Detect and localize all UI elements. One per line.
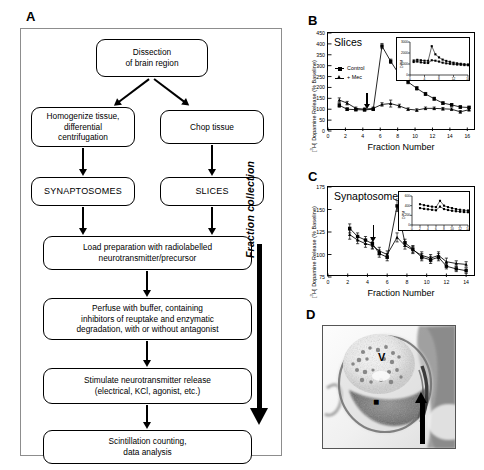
x-tick-label: 16 — [460, 133, 474, 139]
flow-node-chop[interactable]: Chop tissue — [160, 110, 264, 144]
y-tick-label: 350 — [309, 52, 325, 58]
x-tick-label: 4 — [360, 279, 374, 285]
y-tick-label: 200 — [309, 84, 325, 90]
panel-c-title: Synaptosomes — [334, 190, 403, 202]
inset-x-tick-label: 0 — [408, 227, 416, 231]
flow-node-stimulate-label: Stimulate neurotransmitter release(elect… — [84, 375, 211, 397]
y-tick-label: 250 — [309, 74, 325, 80]
flow-arrow-load-perfuse — [146, 271, 148, 291]
inset-x-tick-label: 8 — [440, 227, 448, 231]
legend-square-marker-icon — [335, 68, 344, 69]
x-tick-label: 0 — [321, 279, 335, 285]
panel-a-letter: A — [26, 10, 35, 23]
flow-node-scintillation-label: Scintillation counting,data analysis — [109, 436, 187, 458]
flow-node-chop-label: Chop tissue — [190, 122, 234, 133]
inset-x-tick-label: 4 — [421, 77, 429, 81]
x-tick-label: 8 — [400, 279, 414, 285]
micrograph-image: V ■ — [322, 325, 456, 449]
y-tick-label: 400 — [309, 41, 325, 47]
legend-triangle-marker-icon — [335, 78, 344, 79]
x-tick-label: 2 — [338, 133, 352, 139]
flow-node-homogenize[interactable]: Homogenize tissue,differentialcentrifuga… — [31, 107, 135, 147]
x-tick-label: 12 — [425, 133, 439, 139]
series--mec — [348, 230, 468, 267]
y-tick-label: 100 — [309, 252, 325, 258]
x-tick-label: 14 — [443, 133, 457, 139]
flow-node-synaptosomes-label: SYNAPTOSOMES — [44, 186, 122, 198]
y-tick-label: 125 — [309, 229, 325, 235]
inset-x-tick-label: 10 — [448, 227, 456, 231]
panel-b-plot-area: Slices Control + Mec DPM 010002000300004… — [327, 32, 475, 130]
x-tick-label: 8 — [391, 133, 405, 139]
flow-arrow-to-chop — [153, 78, 185, 103]
inset-y-tick-label: 2000 — [397, 51, 408, 55]
flow-node-dissection[interactable]: Dissectionof brain region — [96, 39, 208, 77]
inset-y-tick-label: 3000 — [397, 40, 408, 44]
flowchart-frame: Dissectionof brain region Homogenize tis… — [20, 28, 282, 456]
panel-b-legend-label-mec: + Mec — [347, 73, 362, 82]
pointer-arrow-head — [415, 392, 427, 403]
inset-y-tick-label: 1000 — [397, 62, 408, 66]
flow-arrow-homogenize-synaptosomes — [82, 148, 84, 170]
panel-c-inset: DPM 020040060002468101214 — [398, 191, 470, 231]
flow-node-stimulate[interactable]: Stimulate neurotransmitter release(elect… — [43, 368, 252, 404]
fraction-collection-arrow-shaft — [257, 244, 262, 412]
inset-y-tick-label: 200 — [399, 213, 410, 217]
panel-b-chart: B [3H] Dopamine Release (% Baseline) Sli… — [300, 14, 484, 164]
x-tick-label: 10 — [408, 133, 422, 139]
flow-node-homogenize-label: Homogenize tissue,differentialcentrifuga… — [47, 111, 120, 144]
flow-node-perfuse[interactable]: Perfuse with buffer, containinginhibitor… — [43, 298, 252, 340]
y-tick-label: 50 — [309, 117, 325, 123]
panel-a-flowchart: A Dissectionof brain region Homogenize t… — [8, 6, 294, 464]
dense-region-square-marker: ■ — [373, 396, 379, 407]
y-tick-label: 300 — [309, 63, 325, 69]
y-tick-label: 175 — [309, 184, 325, 190]
flow-node-slices-label: SLICES — [195, 186, 228, 198]
pointer-arrow-shaft — [420, 402, 425, 444]
y-tick-label: 150 — [309, 207, 325, 213]
x-tick-label: 6 — [373, 133, 387, 139]
inset-x-tick-label: 16 — [464, 77, 472, 81]
vesicle-marker-v: V — [378, 351, 385, 363]
panel-c-chart: C [3H] Dopamine Release (% Baseline) Syn… — [300, 170, 484, 310]
inset-x-tick-label: 0 — [406, 77, 414, 81]
flow-node-load-label: Load preparation with radiolabelledneuro… — [83, 242, 212, 264]
inset-x-tick-label: 8 — [435, 77, 443, 81]
inset-x-tick-label: 12 — [450, 77, 458, 81]
x-tick-label: 12 — [439, 279, 453, 285]
panel-b-legend-item-mec: + Mec — [335, 73, 364, 82]
flow-node-load[interactable]: Load preparation with radiolabelledneuro… — [43, 236, 252, 270]
panel-c-stimulation-arrow — [373, 225, 375, 239]
panel-b-legend: Control + Mec — [335, 64, 364, 83]
flow-node-scintillation[interactable]: Scintillation counting,data analysis — [43, 430, 252, 464]
flow-node-perfuse-label: Perfuse with buffer, containinginhibitor… — [76, 303, 218, 336]
inset-x-tick-label: 12 — [456, 227, 464, 231]
flow-arrow-slices-load — [211, 207, 213, 229]
panel-b-legend-item-control: Control — [335, 64, 364, 73]
flow-node-synaptosomes[interactable]: SYNAPTOSOMES — [31, 177, 135, 206]
y-tick-label: 100 — [309, 106, 325, 112]
flow-arrow-perfuse-stimulate — [146, 341, 148, 361]
panel-c-plot-area: Synaptosomes DPM 020040060002468101214 7… — [327, 186, 475, 276]
y-tick-label: 150 — [309, 95, 325, 101]
panel-c-x-axis-label: Fraction Number — [327, 288, 475, 298]
x-tick-label: 14 — [459, 279, 473, 285]
panel-d-letter: D — [306, 308, 315, 321]
panel-c-letter: C — [308, 170, 317, 183]
flow-node-dissection-label: Dissectionof brain region — [125, 47, 178, 69]
panel-b-legend-label-control: Control — [347, 64, 364, 73]
flow-arrow-stimulate-scintillation — [146, 405, 148, 423]
micrograph-content — [323, 326, 455, 448]
flow-arrow-to-homogenize — [118, 78, 150, 103]
fraction-collection-label: Fraction collection — [244, 161, 256, 258]
x-tick-label: 0 — [321, 133, 335, 139]
x-tick-label: 6 — [380, 279, 394, 285]
inset-x-tick-label: 14 — [464, 227, 472, 231]
inset-y-tick-label: 600 — [399, 194, 410, 198]
panel-b-title: Slices — [334, 36, 362, 48]
panel-b-stimulation-arrow — [366, 93, 368, 105]
y-tick-label: 450 — [309, 30, 325, 36]
inset-x-tick-label: 2 — [416, 227, 424, 231]
inset-x-tick-label: 6 — [432, 227, 440, 231]
panel-b-letter: B — [308, 14, 317, 27]
